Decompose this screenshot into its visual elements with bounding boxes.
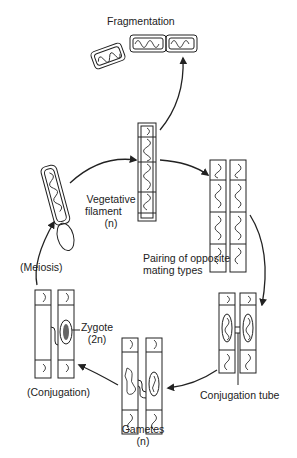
arrow-gametes-to-zygote — [79, 365, 118, 385]
arrow-meiosis-to-vegetative — [70, 159, 136, 183]
vegetative-label-line2: filament — [83, 205, 139, 217]
meiosis-label: (Meiosis) — [20, 261, 63, 273]
arrow-vegetative-to-pairing — [160, 160, 208, 175]
arrow-conjugation-tube-to-gametes — [168, 370, 217, 388]
arrow-zygote-to-meiosis — [36, 222, 54, 285]
zygote-stage — [35, 290, 80, 378]
pairing-label-line2: mating types — [143, 264, 230, 276]
vegetative-label-line1: Vegetative — [83, 193, 139, 205]
gametes-label-line2: (n) — [118, 435, 168, 447]
pairing-label: Pairing of opposite mating types — [143, 252, 230, 276]
fragment-left — [90, 42, 126, 70]
gametes-label: Gametes (n) — [118, 423, 168, 447]
conjugation-label: (Conjugation) — [27, 386, 90, 398]
pairing-label-line1: Pairing of opposite — [143, 252, 230, 264]
vegetative-label-line3: (n) — [83, 217, 139, 229]
gametes-stage — [122, 338, 162, 434]
zygote-label-line1: Zygote — [80, 321, 114, 333]
vegetative-label: Vegetative filament (n) — [83, 193, 139, 229]
arrow-pairing-to-conjugation-tube — [250, 215, 265, 305]
zygote-label-line2: (2n) — [80, 333, 114, 345]
arrow-to-fragmentation — [160, 58, 183, 130]
conjugation-tube-stage — [219, 293, 256, 385]
fragmentation-label: Fragmentation — [107, 15, 175, 27]
vegetative-filament — [138, 123, 156, 221]
conjugation-tube-label: Conjugation tube — [200, 389, 279, 401]
fragment-right — [130, 35, 197, 52]
gametes-label-line1: Gametes — [118, 423, 168, 435]
zygote-label: Zygote (2n) — [80, 321, 114, 345]
